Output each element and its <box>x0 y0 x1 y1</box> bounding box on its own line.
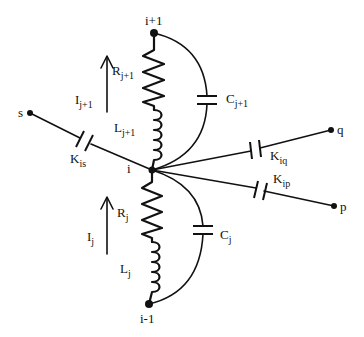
label-node-q: q <box>337 123 344 136</box>
current-arrow-lower <box>101 197 113 254</box>
label-K-is: Kis <box>70 152 86 169</box>
capacitor-arc-upper <box>152 33 217 170</box>
label-I-lower: Ij <box>87 230 94 247</box>
label-L-lower: Lj <box>120 262 131 279</box>
node-p <box>331 203 337 209</box>
node-i <box>149 167 156 174</box>
label-node-s: s <box>18 106 23 119</box>
label-node-i: i <box>127 162 131 175</box>
node-s <box>27 110 33 116</box>
coupling-capacitor-iq <box>152 130 331 170</box>
label-C-lower: Cj <box>220 228 231 245</box>
label-R-upper: Rj+1 <box>112 64 134 81</box>
node-i-minus-1 <box>145 300 153 308</box>
label-K-ip: Kip <box>273 172 290 189</box>
resistor-lower <box>142 170 162 242</box>
label-R-lower: Rj <box>117 206 128 223</box>
label-node-i-minus-1: i-1 <box>140 312 154 325</box>
resistor-upper <box>143 33 164 110</box>
node-i-plus-1 <box>150 29 158 37</box>
label-node-p: p <box>340 200 347 213</box>
circuit-diagram <box>0 0 364 337</box>
node-q <box>328 127 334 133</box>
label-I-upper: Ij+1 <box>75 93 93 110</box>
label-L-upper: Lj+1 <box>114 121 135 138</box>
label-K-iq: Kiq <box>270 149 287 166</box>
label-C-upper: Cj+1 <box>226 92 248 109</box>
coupling-capacitor-ip <box>152 170 334 206</box>
inductor-upper <box>152 110 162 170</box>
inductor-lower <box>149 242 160 304</box>
label-node-i-plus-1: i+1 <box>145 14 162 27</box>
